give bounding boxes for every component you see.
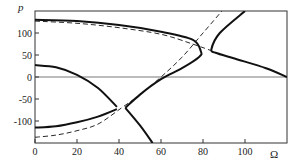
x-tick-label: 80 <box>198 146 208 157</box>
x-tick-label: 20 <box>72 146 82 157</box>
chart: 100500-50-100 020406080100 p Ω <box>0 0 301 161</box>
x-tick-label: 0 <box>33 146 38 157</box>
x-tick-label: 100 <box>238 146 253 157</box>
y-tick-label: -100 <box>14 116 32 127</box>
series-solid-upper-left <box>35 20 202 108</box>
series-solid-lower-left-bottom <box>35 109 117 128</box>
series-dashed-diagonal <box>35 11 222 137</box>
y-axis-label: p <box>17 1 24 13</box>
x-axis-label: Ω <box>270 148 278 160</box>
x-tick-label: 40 <box>114 146 124 157</box>
y-tick-label: 100 <box>17 28 32 39</box>
x-axis-ticks: 020406080100 <box>33 139 253 157</box>
series-solid-lower-right <box>125 108 152 143</box>
series-solid-upper-right <box>211 11 287 77</box>
series-solid-lower-left-top <box>35 65 117 107</box>
y-tick-label: 50 <box>22 50 32 61</box>
y-tick-label: 0 <box>27 72 32 83</box>
x-tick-label: 60 <box>156 146 166 157</box>
y-tick-label: -50 <box>19 94 32 105</box>
